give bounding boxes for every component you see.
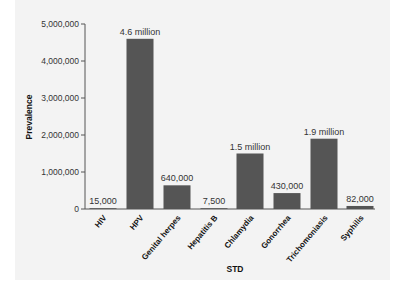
x-tick-label: Syphilis — [339, 213, 366, 243]
data-label: 640,000 — [161, 173, 194, 183]
y-axis: 01,000,0002,000,0003,000,0004,000,0005,0… — [41, 19, 85, 214]
x-tick-label: HIV — [93, 213, 109, 230]
data-label: 430,000 — [271, 181, 304, 191]
y-tick-label: 5,000,000 — [41, 19, 79, 29]
x-tick-label: Gonorrhea — [259, 213, 293, 251]
y-tick-label: 0 — [74, 204, 79, 214]
y-axis-title: Prevalence — [24, 94, 34, 139]
bars: 15,0004.6 million640,0007,5001.5 million… — [89, 27, 374, 209]
bar-chart: 01,000,0002,000,0003,000,0004,000,0005,0… — [0, 0, 405, 293]
x-tick-label: Hepatitis B — [186, 213, 220, 251]
data-label: 15,000 — [89, 196, 117, 206]
bar — [311, 139, 338, 209]
x-axis: HIVHPVGenital herpesHepatitis BChlamydia… — [85, 209, 375, 264]
data-label: 7,500 — [203, 196, 226, 206]
bar — [127, 39, 154, 209]
data-label: 1.5 million — [230, 142, 271, 152]
y-tick-label: 4,000,000 — [41, 56, 79, 66]
bar — [164, 185, 191, 209]
y-tick-label: 2,000,000 — [41, 130, 79, 140]
bar — [237, 154, 264, 210]
x-tick-label: Chlamydia — [223, 213, 256, 250]
x-tick-label: Trichomoniasis — [285, 213, 330, 264]
data-label: 1.9 million — [304, 127, 345, 137]
y-tick-label: 3,000,000 — [41, 93, 79, 103]
bar — [274, 193, 301, 209]
data-label: 4.6 million — [120, 27, 161, 37]
x-tick-label: Genital herpes — [140, 213, 183, 262]
data-label: 82,000 — [346, 194, 374, 204]
x-tick-label: HPV — [128, 213, 146, 232]
x-axis-title: STD — [227, 264, 244, 274]
y-tick-label: 1,000,000 — [41, 167, 79, 177]
